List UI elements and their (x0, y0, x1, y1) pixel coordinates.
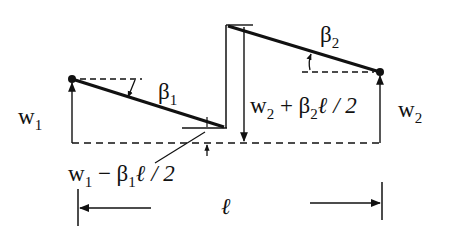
beam-right-segment (228, 26, 380, 72)
label-length: ℓ (221, 194, 231, 219)
beam-left-segment (72, 79, 224, 127)
label-w1-minus-beta1-l-half: w1 − β1ℓ / 2 (68, 161, 175, 190)
beam-diagram: w1 β1 β2 w2 + β2ℓ / 2 w2 w1 − β1ℓ / 2 ℓ (0, 0, 449, 241)
w1-minus-leader (155, 132, 205, 163)
label-w2-plus-beta2-l-half: w2 + β2ℓ / 2 (250, 93, 357, 122)
label-w2: w2 (398, 97, 422, 126)
label-beta1: β1 (158, 79, 177, 108)
node-1 (68, 75, 76, 83)
label-w1: w1 (18, 104, 42, 133)
diagram-canvas: w1 β1 β2 w2 + β2ℓ / 2 w2 w1 − β1ℓ / 2 ℓ (0, 0, 449, 241)
beta2-angle-arc (309, 54, 311, 70)
beta1-angle-arc (128, 80, 135, 97)
label-beta2: β2 (320, 22, 339, 51)
node-2 (376, 68, 384, 76)
